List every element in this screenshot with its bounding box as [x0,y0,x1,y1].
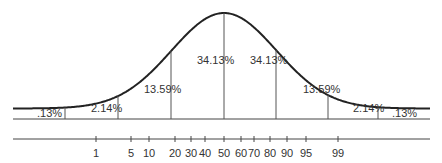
percentile-tick-label: 5 [128,147,134,159]
percentile-tick-label: 50 [218,147,230,159]
percentile-tick-label: 70 [248,147,260,159]
percentile-tick-label: 95 [300,147,312,159]
segment-percent-label: 13.59% [303,83,341,95]
percentile-tick-label: 30 [185,147,197,159]
segment-percent-label: 34.13% [197,54,235,66]
segment-percent-label: 13.59% [144,83,182,95]
percentile-tick-label: 10 [143,147,155,159]
percentile-tick-label: 40 [199,147,211,159]
percentile-tick-label: 20 [169,147,181,159]
segment-percent-label: 2.14% [353,102,384,114]
percentile-tick-label: 1 [93,147,99,159]
percentile-tick-label: 99 [332,147,344,159]
normal-curve-diagram: .13%2.14%13.59%34.13%34.13%13.59%2.14%.1… [0,0,442,163]
segment-percent-label: 2.14% [91,102,122,114]
percentile-tick-label: 80 [264,147,276,159]
segment-labels: .13%2.14%13.59%34.13%34.13%13.59%2.14%.1… [37,54,417,119]
percentile-tick-label: 90 [281,147,293,159]
percentile-tick-label: 60 [235,147,247,159]
segment-percent-label: .13% [37,107,62,119]
segment-percent-label: .13% [392,107,417,119]
segment-percent-label: 34.13% [250,54,288,66]
